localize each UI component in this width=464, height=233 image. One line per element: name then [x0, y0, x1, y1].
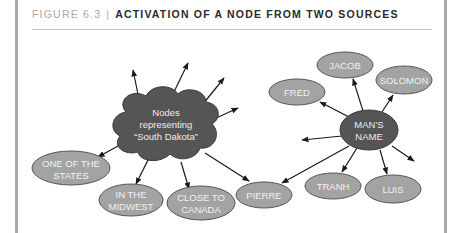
edge-mn-unlabeled-right: [392, 146, 414, 161]
node-close-to-canada: CLOSE TO CANADA: [167, 186, 235, 220]
node-mans-name: MAN'S NAME: [340, 110, 398, 150]
tranh-label: TRANH: [317, 181, 350, 192]
states-label-line-1: ONE OF THE: [42, 158, 100, 169]
node-south-dakota: Nodes representing “South Dakota”: [113, 87, 218, 161]
fred-label: FRED: [284, 87, 310, 98]
midwest-label-line-2: MIDWEST: [109, 201, 154, 212]
luis-label: LUIS: [382, 184, 403, 195]
canada-label-line-2: CANADA: [181, 204, 221, 215]
south-dakota-label-line-3: “South Dakota”: [134, 131, 198, 142]
edge-sd-pierre: [205, 153, 249, 181]
states-label-line-2: STATES: [53, 170, 89, 181]
edge-mn-tranh: [342, 148, 357, 172]
solomon-label: SOLOMON: [380, 75, 429, 86]
pierre-label: PIERRE: [246, 190, 281, 201]
mans-name-label-line-1: MAN'S: [354, 119, 383, 130]
node-jacob: JACOB: [317, 52, 373, 78]
jacob-label: JACOB: [329, 60, 361, 71]
south-dakota-label-line-1: Nodes: [152, 107, 180, 118]
node-in-the-midwest: IN THE MIDWEST: [99, 184, 163, 216]
south-dakota-label-line-2: representing: [140, 119, 193, 130]
spreading-activation-diagram: Nodes representing “South Dakota” MAN'S …: [0, 0, 464, 233]
edge-sd-canada: [181, 162, 189, 189]
edge-mn-luis: [380, 150, 387, 174]
mans-name-ellipse: [340, 110, 398, 150]
edge-sd-midwest: [136, 158, 149, 184]
edge-sd-states: [98, 146, 118, 157]
node-luis: LUIS: [365, 175, 421, 203]
edge-mn-unlabeled-left: [302, 136, 342, 140]
midwest-label-line-1: IN THE: [116, 189, 147, 200]
edge-mn-fred: [320, 102, 349, 117]
node-pierre: PIERRE: [236, 182, 292, 208]
edge-mn-jacob: [353, 79, 363, 111]
node-tranh: TRANH: [305, 173, 361, 199]
mans-name-label-line-2: NAME: [355, 131, 382, 142]
node-solomon: SOLOMON: [376, 66, 432, 94]
node-fred: FRED: [269, 79, 325, 105]
node-one-of-the-states: ONE OF THE STATES: [32, 151, 110, 185]
edge-mn-solomon: [382, 95, 393, 112]
canada-label-line-1: CLOSE TO: [177, 192, 225, 203]
